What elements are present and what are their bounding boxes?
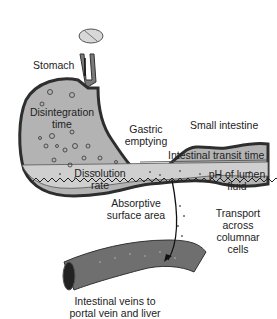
label-dissolution: Dissolution rate — [65, 167, 135, 191]
label-transit-time: Intestinal transit time — [168, 149, 264, 161]
label-small-intestine: Small intestine — [190, 119, 258, 131]
label-absorptive: Absorptive surface area — [100, 197, 172, 221]
label-ph: pH of lumen fluid — [205, 168, 269, 192]
label-stomach: Stomach — [33, 59, 74, 71]
label-transport: Transport across columnar cells — [208, 207, 268, 255]
label-gastric-emptying: Gastric emptying — [116, 123, 176, 147]
label-veins: Intestinal veins to portal vein and live… — [50, 295, 180, 319]
label-disintegration: Disintegration time — [22, 106, 102, 130]
intestinal-vein — [64, 240, 206, 290]
tablet-icon — [79, 29, 103, 43]
